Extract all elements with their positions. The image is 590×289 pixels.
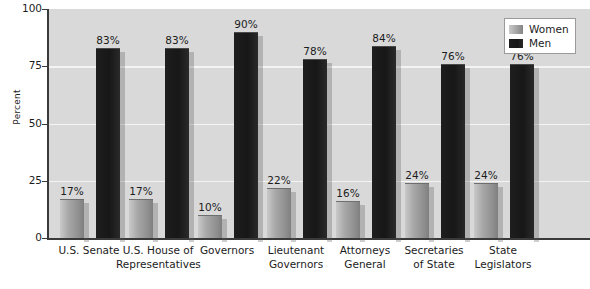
bar-women-4[interactable]: 22%	[267, 188, 291, 238]
bar-value-label: 84%	[372, 32, 395, 44]
bar-value-label: 22%	[267, 174, 290, 186]
bar-body	[303, 59, 327, 238]
bar-shadow	[396, 50, 401, 242]
bar-shadow	[465, 68, 470, 242]
women-swatch	[509, 25, 523, 34]
bar-group: 17%83%	[58, 9, 124, 238]
bar-body	[129, 199, 153, 238]
bar-value-label: 24%	[474, 169, 497, 181]
y-tick-label: 75	[2, 59, 42, 71]
bar-men-1[interactable]: 83%	[96, 48, 120, 238]
x-axis-label-line: Representatives	[116, 258, 200, 272]
bar-body	[60, 199, 84, 238]
bar-body	[474, 183, 498, 238]
bar-women-7[interactable]: 24%	[474, 183, 498, 238]
bar-shadow	[291, 192, 296, 242]
bar-men-4[interactable]: 78%	[303, 59, 327, 238]
bar-body	[510, 64, 534, 238]
bar-shadow	[258, 36, 263, 242]
bar-body	[96, 48, 120, 238]
bar-value-label: 16%	[336, 187, 359, 199]
bar-women-1[interactable]: 17%	[60, 199, 84, 238]
bar-body	[441, 64, 465, 238]
bar-shadow	[84, 203, 89, 242]
bar-men-7[interactable]: 76%	[510, 64, 534, 238]
bar-group: 24%76%	[403, 9, 469, 238]
bar-men-6[interactable]: 76%	[441, 64, 465, 238]
x-axis-label: StateLegislators	[461, 244, 545, 271]
bar-shadow	[327, 63, 332, 242]
bar-body	[405, 183, 429, 238]
bar-shadow	[429, 187, 434, 242]
legend-item-women[interactable]: Women	[509, 22, 569, 36]
bar-shadow	[120, 52, 125, 242]
legend-item-men[interactable]: Men	[509, 36, 569, 50]
x-axis-label-line: Legislators	[461, 258, 545, 272]
bar-shadow	[189, 52, 194, 242]
y-tick-label: 0	[2, 231, 42, 243]
bar-shadow	[222, 219, 227, 242]
bar-body	[234, 32, 258, 238]
bar-value-label: 90%	[234, 18, 257, 30]
legend-label: Men	[529, 37, 551, 49]
bar-chart: Percent 0255075100 17%83%17%83%10%90%22%…	[0, 0, 590, 289]
bar-value-label: 17%	[60, 185, 83, 197]
bar-value-label: 17%	[129, 185, 152, 197]
bar-body	[198, 215, 222, 238]
bar-women-5[interactable]: 16%	[336, 201, 360, 238]
bar-value-label: 78%	[303, 45, 326, 57]
bar-value-label: 24%	[405, 169, 428, 181]
bar-group: 22%78%	[265, 9, 331, 238]
y-axis: 0255075100	[0, 0, 42, 289]
bar-group: 16%84%	[334, 9, 400, 238]
bar-men-2[interactable]: 83%	[165, 48, 189, 238]
bar-body	[165, 48, 189, 238]
bar-value-label: 83%	[96, 34, 119, 46]
bar-value-label: 76%	[441, 50, 464, 62]
x-axis-labels: U.S. SenateU.S. House ofRepresentativesG…	[47, 244, 588, 289]
bar-shadow	[534, 68, 539, 242]
men-swatch	[509, 39, 523, 48]
bar-women-6[interactable]: 24%	[405, 183, 429, 238]
bar-group: 10%90%	[196, 9, 262, 238]
bar-body	[372, 46, 396, 238]
bar-shadow	[153, 203, 158, 242]
bar-body	[336, 201, 360, 238]
legend-label: Women	[529, 23, 569, 35]
bar-women-3[interactable]: 10%	[198, 215, 222, 238]
bar-men-5[interactable]: 84%	[372, 46, 396, 238]
x-axis-label-line: State	[461, 244, 545, 258]
y-tick-label: 100	[2, 2, 42, 14]
bar-shadow	[498, 187, 503, 242]
legend: WomenMen	[504, 18, 576, 54]
bar-group: 17%83%	[127, 9, 193, 238]
bar-value-label: 10%	[198, 201, 221, 213]
bar-shadow	[360, 205, 365, 242]
bar-body	[267, 188, 291, 238]
y-tick-label: 50	[2, 117, 42, 129]
bar-men-3[interactable]: 90%	[234, 32, 258, 238]
bar-value-label: 83%	[165, 34, 188, 46]
y-tick-label: 25	[2, 174, 42, 186]
bar-women-2[interactable]: 17%	[129, 199, 153, 238]
